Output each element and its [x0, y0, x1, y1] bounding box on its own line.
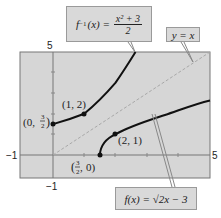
- finv-sup: −1: [79, 20, 86, 28]
- tick-y-max: 5: [47, 40, 53, 51]
- svg-text:,: ,: [80, 161, 83, 173]
- finv-numerator: x² + 3: [114, 13, 142, 25]
- finv-fraction: x² + 3 2: [114, 13, 142, 36]
- svg-text:3: 3: [41, 113, 45, 121]
- tick-y-min: −1: [46, 181, 58, 192]
- identity-line-label: y = x: [166, 27, 200, 42]
- point-0-3-2: [51, 122, 56, 127]
- svg-text:0): 0): [86, 161, 96, 174]
- point-2-1: [113, 132, 118, 137]
- point-1-2: [82, 112, 87, 117]
- label-2-1: (2, 1): [118, 134, 142, 147]
- label-1-2: (1, 2): [62, 98, 86, 111]
- function-label: f(x) = √2x − 3: [115, 187, 197, 210]
- point-3-2-0: [98, 153, 103, 158]
- tick-x-min: −1: [6, 150, 18, 161]
- svg-text:(0,: (0,: [23, 116, 35, 129]
- f-text: f(x) = √2x − 3: [124, 193, 187, 205]
- inverse-function-label: f−1(x) = x² + 3 2: [66, 6, 152, 42]
- tick-x-max: 5: [212, 150, 218, 161]
- finv-denominator: 2: [123, 25, 132, 36]
- yx-text: y = x: [172, 29, 195, 41]
- svg-text:(: (: [71, 160, 75, 174]
- svg-text:): ): [46, 115, 50, 129]
- svg-text:2: 2: [41, 122, 45, 130]
- finv-arg: (x) =: [87, 18, 109, 30]
